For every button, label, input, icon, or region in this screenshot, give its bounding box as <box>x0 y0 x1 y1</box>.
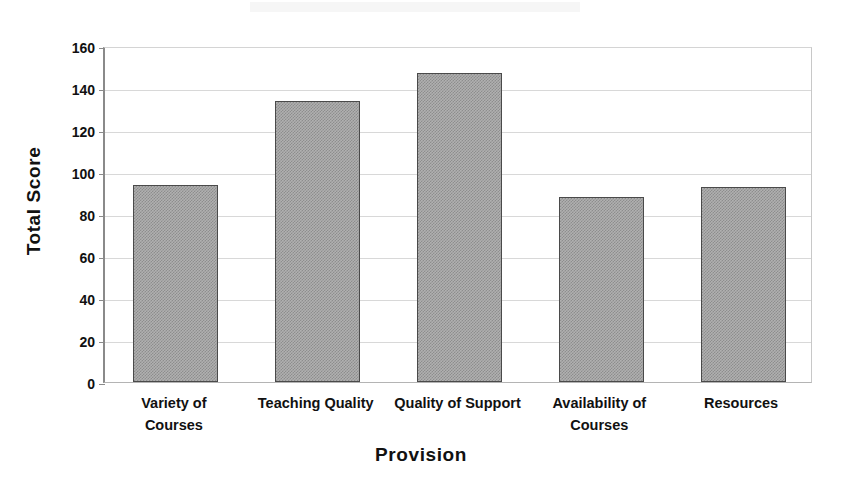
plot-area: 020406080100120140160 <box>103 47 812 383</box>
x-category-label: Availability ofCourses <box>528 392 670 436</box>
bar-slot <box>701 48 786 382</box>
y-tick-label: 140 <box>72 82 95 98</box>
bar[interactable] <box>559 197 644 382</box>
x-category-label-line: Quality of Support <box>387 392 529 414</box>
bar[interactable] <box>133 185 218 382</box>
y-tick-label: 100 <box>72 166 95 182</box>
scan-artifact <box>250 2 580 12</box>
bar-chart: Total Score 020406080100120140160 Variet… <box>0 0 842 478</box>
bar[interactable] <box>701 187 786 382</box>
x-category-label: Resources <box>670 392 812 414</box>
y-tick-label: 0 <box>87 376 95 392</box>
x-category-label: Teaching Quality <box>245 392 387 414</box>
x-category-label-line: Courses <box>528 414 670 436</box>
bar[interactable] <box>275 101 360 382</box>
bars-layer <box>105 48 811 382</box>
bar-slot <box>417 48 502 382</box>
y-axis-title: Total Score <box>23 111 45 291</box>
y-tick-label: 80 <box>79 208 95 224</box>
x-category-label: Quality of Support <box>387 392 529 414</box>
y-tick-label: 120 <box>72 124 95 140</box>
x-category-label-line: Resources <box>670 392 812 414</box>
bar-slot <box>275 48 360 382</box>
y-tick-label: 20 <box>79 334 95 350</box>
y-tick-label: 40 <box>79 292 95 308</box>
y-tick-mark <box>99 384 105 385</box>
x-category-label-line: Availability of <box>528 392 670 414</box>
x-category-label-line: Courses <box>103 414 245 436</box>
x-category-label-line: Teaching Quality <box>245 392 387 414</box>
x-axis-title: Provision <box>0 444 842 466</box>
bar-slot <box>133 48 218 382</box>
y-tick-label: 60 <box>79 250 95 266</box>
bar-slot <box>559 48 644 382</box>
bar[interactable] <box>417 73 502 382</box>
x-category-label-line: Variety of <box>103 392 245 414</box>
y-tick-label: 160 <box>72 40 95 56</box>
x-category-label: Variety ofCourses <box>103 392 245 436</box>
x-axis-category-labels: Variety ofCoursesTeaching QualityQuality… <box>103 392 812 448</box>
